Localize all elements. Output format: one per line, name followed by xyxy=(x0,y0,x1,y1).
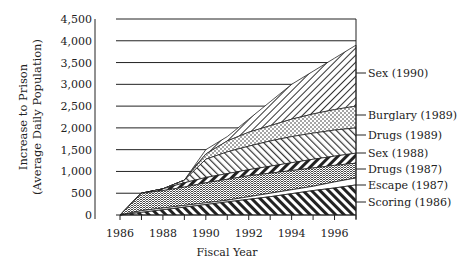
legend-label: Sex (1990) xyxy=(368,67,428,80)
x-tick-label: 1990 xyxy=(192,227,220,240)
x-axis-label: Fiscal Year xyxy=(196,246,258,259)
y-tick-label: 3,000 xyxy=(61,78,93,91)
legend-label: Escape (1987) xyxy=(368,179,448,192)
y-tick-label: 2,500 xyxy=(61,100,93,113)
y-tick-label: 0 xyxy=(85,209,92,222)
legend-label: Sex (1988) xyxy=(368,147,428,160)
x-tick-label: 1994 xyxy=(278,227,306,240)
y-tick-label: 4,000 xyxy=(61,35,93,48)
x-tick-label: 1988 xyxy=(149,227,177,240)
y-axis-label-line1: Increase to Prison xyxy=(16,63,30,170)
x-tick-label: 1996 xyxy=(321,227,349,240)
y-tick-label: 2,000 xyxy=(61,122,93,135)
x-tick-label: 1986 xyxy=(106,227,134,240)
legend-label: Scoring (1986) xyxy=(368,196,451,209)
chart-container: 05001,0001,5002,0002,5003,0003,5004,0004… xyxy=(0,0,463,270)
stacked-area-chart: 05001,0001,5002,0002,5003,0003,5004,0004… xyxy=(0,0,463,270)
y-tick-label: 1,500 xyxy=(61,144,93,157)
x-tick-label: 1992 xyxy=(235,227,263,240)
y-tick-label: 3,500 xyxy=(61,57,93,70)
y-tick-label: 1,000 xyxy=(61,165,93,178)
legend: Sex (1990)Burglary (1989)Drugs (1989)Sex… xyxy=(356,67,457,209)
legend-label: Drugs (1987) xyxy=(368,163,442,176)
y-tick-label: 500 xyxy=(71,187,92,200)
y-axis-label-line2: (Average Daily Population) xyxy=(30,39,44,195)
legend-label: Drugs (1989) xyxy=(368,129,442,142)
y-axis-label: Increase to Prison (Average Daily Popula… xyxy=(16,39,44,195)
area-layers xyxy=(120,45,356,215)
y-tick-label: 4,500 xyxy=(61,13,93,26)
legend-label: Burglary (1989) xyxy=(368,109,457,122)
